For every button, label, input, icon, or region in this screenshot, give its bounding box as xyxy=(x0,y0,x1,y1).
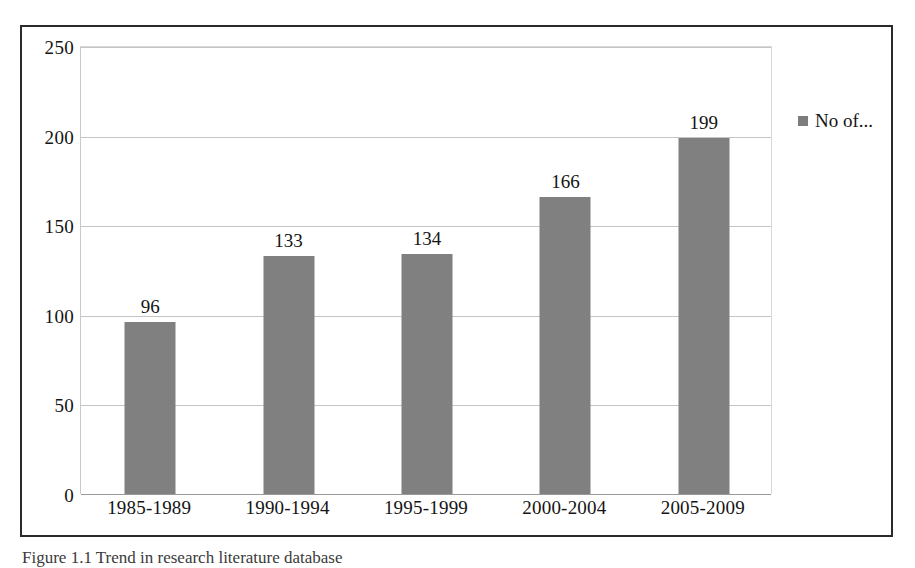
bar-value-label: 199 xyxy=(690,113,719,132)
bars-layer: 96 133 134 166 199 xyxy=(81,47,771,494)
bar-2000-2004[interactable] xyxy=(540,197,591,494)
x-axis: 1985-1989 1990-1994 1995-1999 2000-2004 … xyxy=(80,498,772,530)
bar-1995-1999[interactable] xyxy=(401,254,452,494)
x-tick-label: 2000-2004 xyxy=(495,498,633,517)
chart-legend: No of... xyxy=(798,111,873,130)
bar-1985-1989[interactable] xyxy=(125,322,176,494)
bar-2005-2009[interactable] xyxy=(678,138,729,495)
bar-slot: 166 xyxy=(496,47,634,494)
figure-caption: Figure 1.1 Trend in research literature … xyxy=(22,548,343,568)
chart-frame: 250 200 150 100 50 0 96 133 134 xyxy=(20,25,893,537)
gridline-0-baseline xyxy=(81,494,771,495)
y-tick-label: 150 xyxy=(24,217,74,236)
bar-slot: 199 xyxy=(635,47,773,494)
bar-value-label: 134 xyxy=(413,229,442,248)
plot-area: 96 133 134 166 199 xyxy=(80,46,772,494)
y-tick-label: 250 xyxy=(24,38,74,57)
bar-value-label: 96 xyxy=(141,297,160,316)
y-tick-label: 50 xyxy=(24,396,74,415)
bar-1990-1994[interactable] xyxy=(263,256,314,494)
y-tick-label: 0 xyxy=(24,486,74,505)
x-tick-label: 1990-1994 xyxy=(218,498,356,517)
y-axis: 250 200 150 100 50 0 xyxy=(22,46,74,494)
legend-swatch-icon xyxy=(798,116,808,126)
y-tick-label: 100 xyxy=(24,307,74,326)
x-tick-label: 1985-1989 xyxy=(80,498,218,517)
bar-slot: 133 xyxy=(219,47,357,494)
x-tick-label: 2005-2009 xyxy=(634,498,772,517)
bar-value-label: 166 xyxy=(551,172,580,191)
y-tick-label: 200 xyxy=(24,128,74,147)
x-tick-label: 1995-1999 xyxy=(357,498,495,517)
bar-slot: 134 xyxy=(358,47,496,494)
legend-entry-label: No of... xyxy=(815,111,873,130)
bar-slot: 96 xyxy=(81,47,219,494)
bar-value-label: 133 xyxy=(274,231,303,250)
